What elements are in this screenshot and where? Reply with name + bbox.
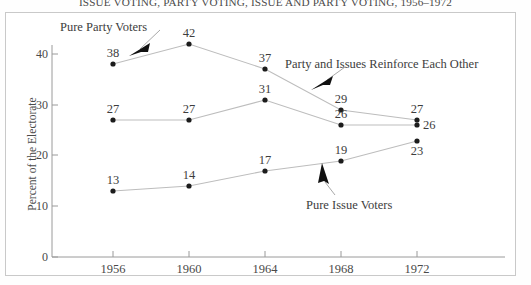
x-tick-marks [113, 251, 417, 257]
annotation-pure-party-voters: Pure Party Voters [60, 20, 147, 35]
point-label-both-1972: 26 [423, 118, 453, 133]
annotation-party-and-issues: Party and Issues Reinforce Each Other [285, 57, 478, 72]
point-label-party-1960: 42 [174, 26, 204, 41]
point-label-party-1964: 37 [250, 51, 280, 66]
line-party-and-issues [113, 100, 417, 125]
annotation-leader-pure-issue-voters [318, 163, 335, 195]
annotation-pure-issue-voters: Pure Issue Voters [306, 198, 392, 213]
point-label-party-1968: 29 [326, 92, 356, 107]
point-label-issue-1956: 13 [98, 173, 128, 188]
point-label-both-1968: 26 [326, 107, 356, 122]
point-label-issue-1960: 14 [174, 168, 204, 183]
plot-area [0, 0, 531, 285]
point-label-party-1956: 38 [98, 46, 128, 61]
point-label-issue-1968: 19 [326, 143, 356, 158]
point-label-both-1960: 27 [174, 102, 204, 117]
point-label-party-1972: 27 [402, 102, 432, 117]
point-label-both-1964: 31 [250, 82, 280, 97]
point-label-both-1956: 27 [98, 102, 128, 117]
y-tick-marks [52, 54, 58, 257]
chart-page: ISSUE VOTING, PARTY VOTING, ISSUE AND PA… [0, 0, 531, 285]
markers-party-and-issues [110, 97, 419, 127]
point-label-issue-1964: 17 [250, 153, 280, 168]
point-label-issue-1972: 23 [402, 144, 432, 159]
